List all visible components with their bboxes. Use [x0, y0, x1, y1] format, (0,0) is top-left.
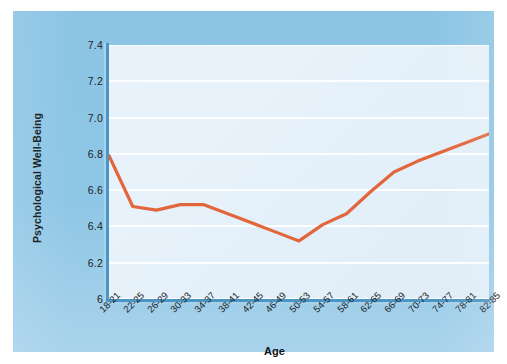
- y-tick-label: 6: [63, 293, 103, 305]
- y-tick-label: 6.4: [63, 220, 103, 232]
- y-tick-label: 7.2: [63, 75, 103, 87]
- y-axis-line: [106, 43, 109, 301]
- y-axis-title: Psychological Well-Being: [31, 98, 43, 258]
- series-polyline: [109, 134, 489, 241]
- y-tick-label: 6.6: [63, 184, 103, 196]
- y-tick-label: 7.0: [63, 112, 103, 124]
- y-tick-label: 7.4: [63, 39, 103, 51]
- chart-figure: 7.47.27.06.86.66.46.26 Psychological Wel…: [0, 0, 507, 364]
- y-tick-label: 6.2: [63, 257, 103, 269]
- plot-area: [109, 45, 489, 299]
- series-line-chart: [109, 45, 489, 299]
- y-tick-label: 6.8: [63, 148, 103, 160]
- x-axis-title: Age: [13, 345, 507, 357]
- chart-panel: 7.47.27.06.86.66.46.26 Psychological Wel…: [13, 11, 494, 352]
